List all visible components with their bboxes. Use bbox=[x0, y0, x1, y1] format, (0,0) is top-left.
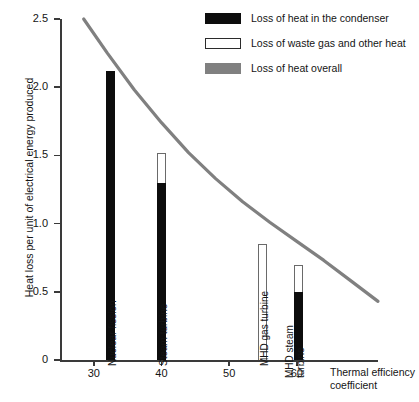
chart-container: Loss of heat in the condenser Loss of wa… bbox=[0, 0, 419, 402]
x-tick-mark bbox=[228, 360, 230, 366]
plot-area: 00.51.01.52.02.5 30405060 Heat loss per … bbox=[0, 0, 419, 402]
y-tick-mark bbox=[54, 86, 60, 88]
overall-loss-curve bbox=[0, 0, 419, 402]
x-tick-label: 50 bbox=[209, 368, 249, 379]
y-tick-label: 2.5 bbox=[14, 13, 48, 24]
bar-label: MHD gas turbine bbox=[260, 291, 270, 366]
x-tick-label: 30 bbox=[74, 368, 114, 379]
bar-label: MHD steam turbine bbox=[284, 325, 306, 378]
bar-label: Steam turbine bbox=[159, 304, 169, 366]
bar-label: Nuclear fission bbox=[108, 300, 118, 366]
y-tick-label: 0 bbox=[14, 354, 48, 365]
y-tick-mark bbox=[54, 359, 60, 361]
y-axis-title: Heat loss per unit of electrical energy … bbox=[24, 58, 35, 318]
x-tick-mark bbox=[93, 360, 95, 366]
y-tick-mark bbox=[54, 291, 60, 293]
y-axis-line bbox=[60, 19, 62, 361]
y-tick-mark bbox=[54, 155, 60, 157]
bar-segment-waste-gas bbox=[294, 265, 303, 292]
x-tick-label: 40 bbox=[141, 368, 181, 379]
x-axis-title: Thermal efficiency coefficient bbox=[330, 366, 416, 392]
y-tick-mark bbox=[54, 223, 60, 225]
y-tick-mark bbox=[54, 18, 60, 20]
bar-segment-waste-gas bbox=[157, 153, 166, 183]
